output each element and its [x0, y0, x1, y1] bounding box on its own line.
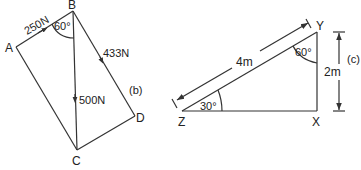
- figure-c-label: (c): [347, 53, 360, 65]
- point-B: B: [68, 0, 76, 12]
- length-ZY-label: 4m: [236, 55, 253, 69]
- point-Y: Y: [316, 19, 324, 33]
- angle-arc-Z: [218, 90, 222, 111]
- angle-B-label: 60°: [54, 20, 71, 32]
- dim-ZY-tick-1: [172, 99, 177, 108]
- figure-b-label: (b): [129, 84, 142, 96]
- length-XY-label: 2m: [324, 65, 341, 79]
- force-BC-label: 500N: [79, 94, 105, 106]
- angle-Y-label: 60°: [295, 46, 312, 58]
- point-A: A: [5, 41, 13, 55]
- force-AB-label: 250N: [22, 13, 51, 37]
- point-C: C: [72, 154, 81, 168]
- edge-BC: [73, 11, 77, 150]
- point-X: X: [312, 115, 320, 129]
- dim-ZY-segment-1: [177, 68, 232, 100]
- point-D: D: [136, 111, 145, 125]
- angle-Z-label: 30°: [200, 100, 217, 112]
- diagram-canvas: A B C D 250N 60° 433N 500N (b) Z X Y 4m …: [0, 0, 361, 170]
- point-Z: Z: [178, 115, 185, 129]
- edge-CD: [77, 116, 135, 150]
- force-BD-label: 433N: [103, 47, 129, 59]
- edge-AC: [16, 47, 77, 150]
